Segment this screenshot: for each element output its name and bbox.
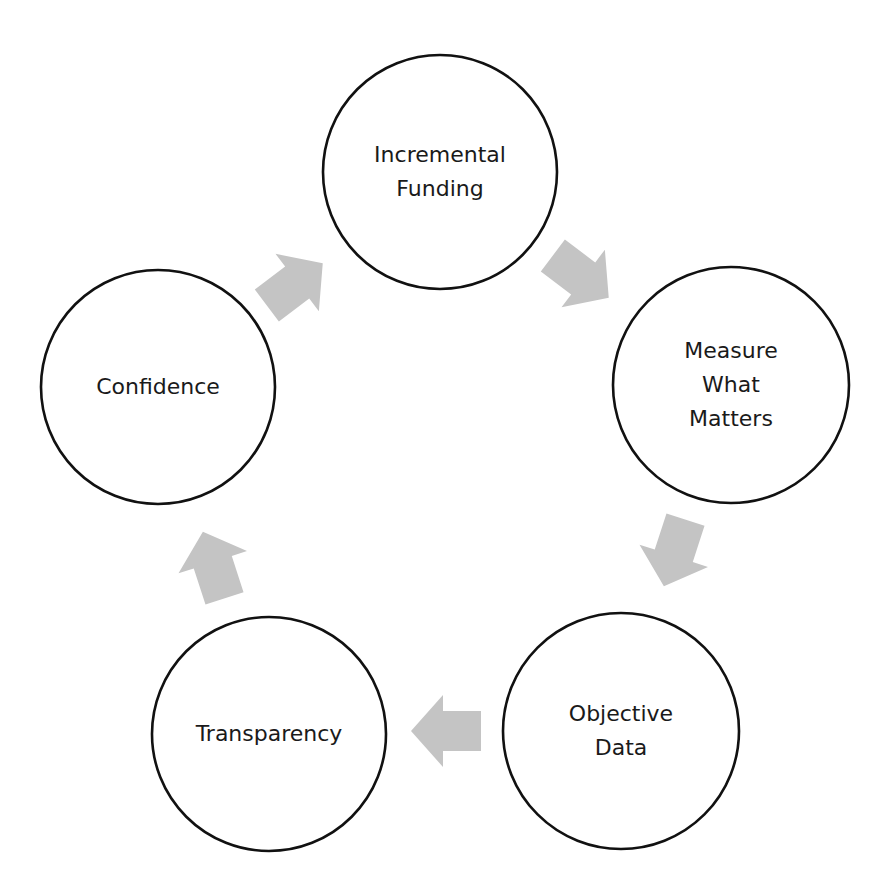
cycle-diagram xyxy=(0,0,883,889)
node-label-line: Data xyxy=(569,731,673,765)
node-label-line: Matters xyxy=(684,402,778,436)
node-label-line: Confidence xyxy=(96,370,220,404)
node-label-line: Measure xyxy=(684,334,778,368)
node-label-incremental-funding: IncrementalFunding xyxy=(374,138,506,206)
arrow-icon-confidence-to-incremental-funding xyxy=(245,235,344,335)
node-label-confidence: Confidence xyxy=(96,370,220,404)
arrow-icon-transparency-to-confidence xyxy=(169,521,259,610)
node-label-line: Objective xyxy=(569,697,673,731)
node-label-line: Funding xyxy=(374,172,506,206)
arrow-icon-measure-what-matters-to-objective-data xyxy=(630,509,720,598)
node-label-line: Transparency xyxy=(196,717,343,751)
arrow-icon-objective-data-to-transparency xyxy=(411,695,481,767)
arrow-icon-incremental-funding-to-measure-what-matters xyxy=(531,227,630,327)
node-label-line: What xyxy=(684,368,778,402)
node-label-objective-data: ObjectiveData xyxy=(569,697,673,765)
node-label-measure-what-matters: MeasureWhatMatters xyxy=(684,334,778,436)
node-label-transparency: Transparency xyxy=(196,717,343,751)
node-label-line: Incremental xyxy=(374,138,506,172)
